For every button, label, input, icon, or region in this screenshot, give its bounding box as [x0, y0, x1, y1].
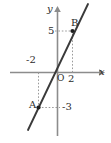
x-tick-label-2: 2: [68, 74, 74, 84]
coordinate-graph-figure: y x 5 -2 2 -3 O A B: [0, 0, 111, 143]
point-a-marker: [36, 105, 40, 109]
graph-canvas: [0, 0, 111, 143]
point-b-label: B: [71, 18, 78, 28]
point-b-marker: [70, 29, 74, 33]
y-axis-label: y: [47, 4, 53, 14]
y-tick-label-neg3: -3: [62, 102, 72, 112]
x-tick-label-neg2: -2: [26, 55, 36, 65]
point-a-label: A: [29, 100, 36, 110]
y-tick-label-5: 5: [48, 26, 54, 36]
x-axis-label: x: [99, 67, 105, 77]
y-axis-arrow-icon: [54, 6, 61, 12]
origin-label: O: [57, 74, 64, 83]
